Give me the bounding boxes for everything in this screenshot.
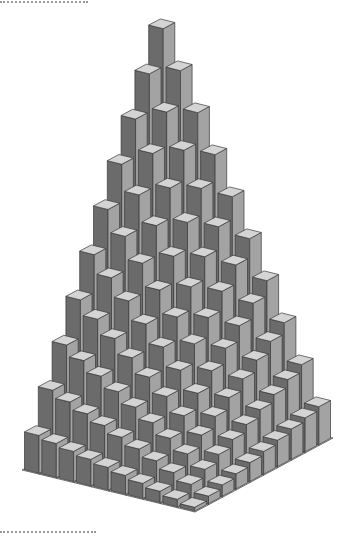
bar-front-face (25, 432, 40, 473)
bar-front-face (76, 456, 91, 486)
bar-front-face (59, 448, 74, 482)
bar-front-face (42, 440, 57, 478)
bar3d-chart (0, 0, 355, 542)
bar-side-face (305, 412, 317, 452)
bar-side-face (319, 401, 331, 445)
bars-group (25, 19, 331, 511)
bar-front-face (94, 464, 109, 490)
